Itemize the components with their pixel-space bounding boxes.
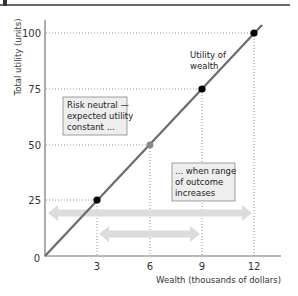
box1-line3: constant ... (67, 122, 115, 132)
x-axis-label: Wealth (thousands of dollars) (156, 275, 281, 285)
point-12-100 (250, 29, 257, 36)
y-tick-25: 25 (28, 195, 41, 206)
x-tick-3: 3 (94, 261, 100, 272)
y-axis-label: Total utility (units) (13, 19, 23, 97)
box1-line2: expected utility (67, 111, 133, 121)
box2-line1: ... when range (175, 166, 236, 176)
y-tick-75: 75 (28, 84, 41, 95)
box2-line3: increases (175, 188, 216, 198)
point-3-25 (93, 196, 100, 203)
point-9-75 (198, 85, 205, 92)
y-tick-100: 100 (22, 28, 41, 39)
point-6-50 (147, 142, 154, 149)
x-tick-9: 9 (199, 261, 205, 272)
curve-label-line1: Utility of (190, 50, 227, 60)
narrow-range-arrow (99, 226, 200, 242)
y-tick-50: 50 (28, 140, 41, 151)
wide-range-arrow (48, 205, 252, 221)
curve-label-line2: wealth (190, 61, 218, 71)
utility-chart: Risk neutral — expected utility constant… (0, 0, 298, 296)
utility-of-wealth-line (45, 25, 262, 256)
x-tick-12: 12 (248, 261, 261, 272)
box2-line2: of outcome (175, 177, 223, 187)
x-tick-6: 6 (147, 261, 153, 272)
origin-label: 0 (34, 253, 40, 264)
box1-line1: Risk neutral — (67, 100, 129, 110)
